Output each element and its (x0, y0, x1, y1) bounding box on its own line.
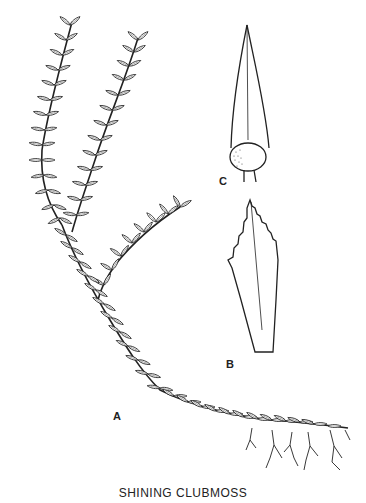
part-c-leaf-sporangium (230, 25, 269, 182)
plant-a-stems (42, 22, 348, 428)
plant-drawing (0, 0, 366, 503)
plant-a-roots (246, 428, 350, 470)
label-c: C (219, 175, 227, 187)
figure-caption: SHINING CLUBMOSS (0, 486, 366, 500)
label-a: A (113, 410, 121, 422)
botanical-illustration: A B C SHINING CLUBMOSS (0, 0, 366, 503)
label-b: B (226, 358, 234, 370)
part-b-serrated-leaf (228, 200, 278, 352)
